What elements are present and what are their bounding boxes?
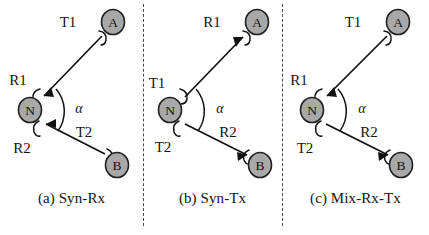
angle-label-alpha: α — [75, 101, 83, 116]
panel-syn-tx-graphic: A N B R1 T1 R2 T2 α — [143, 0, 282, 186]
node-a-label: A — [108, 15, 118, 30]
label-r2: R2 — [13, 140, 31, 156]
antenna-hook-n-bottom — [174, 121, 180, 136]
angle-arc — [196, 89, 204, 131]
label-r1: R1 — [203, 14, 221, 30]
angle-arc — [338, 89, 346, 131]
link-n-to-b — [185, 124, 247, 155]
panel-divider-2 — [282, 4, 283, 226]
angle-label-alpha: α — [358, 101, 366, 116]
node-n: N — [19, 98, 42, 123]
label-t2: T2 — [155, 139, 172, 155]
node-n: N — [301, 98, 324, 123]
panel-syn-tx: A N B R1 T1 R2 T2 α (b) Syn-Tx — [143, 0, 282, 235]
link-n-to-a — [185, 37, 243, 97]
node-n-label: N — [25, 103, 35, 118]
caption-panel-c: (c) Mix-Rx-Tx — [282, 190, 429, 207]
figure-three-panel-antenna-diagram: A N B T1 R1 T2 R2 α (a) Syn-Rx — [0, 0, 429, 235]
caption-panel-a: (a) Syn-Rx — [0, 190, 143, 207]
link-n-to-b — [326, 124, 388, 155]
angle-arc — [56, 89, 64, 131]
node-a: A — [246, 10, 269, 35]
node-n-label: N — [165, 103, 175, 118]
label-t2: T2 — [76, 124, 93, 140]
label-r2: R2 — [219, 124, 237, 140]
label-t1: T1 — [149, 75, 166, 91]
node-b: B — [249, 153, 272, 178]
panel-mix-rx-tx: A N B T1 R1 R2 T2 α (c) Mix-Rx-Tx — [282, 0, 429, 235]
node-b: B — [390, 153, 413, 178]
node-a-label: A — [393, 15, 403, 30]
label-r1: R1 — [9, 72, 27, 88]
panel-syn-rx: A N B T1 R1 T2 R2 α (a) Syn-Rx — [0, 0, 143, 235]
node-b-label: B — [396, 158, 405, 173]
link-a-to-n — [327, 36, 387, 96]
arrowhead-into-n-top — [44, 87, 54, 97]
node-a-label: A — [252, 15, 262, 30]
node-b-label: B — [255, 158, 264, 173]
node-n-label: N — [307, 103, 317, 118]
antenna-hook-n-bottom — [34, 121, 40, 136]
antenna-hook-a — [243, 31, 250, 45]
node-b: B — [106, 153, 129, 178]
panel-mix-rx-tx-graphic: A N B T1 R1 R2 T2 α — [282, 0, 429, 186]
link-a-to-n — [44, 36, 102, 96]
node-a: A — [102, 10, 125, 35]
node-a: A — [387, 10, 410, 35]
label-t2: T2 — [297, 140, 314, 156]
label-t1: T1 — [60, 14, 77, 30]
caption-panel-b: (b) Syn-Tx — [143, 190, 282, 207]
label-r2: R2 — [360, 124, 378, 140]
panel-syn-rx-graphic: A N B T1 R1 T2 R2 α — [0, 0, 143, 186]
node-b-label: B — [112, 158, 121, 173]
label-t1: T1 — [345, 14, 362, 30]
node-n: N — [159, 98, 182, 123]
angle-label-alpha: α — [216, 101, 224, 116]
antenna-hook-n-bottom — [316, 121, 322, 136]
panel-divider-1 — [143, 4, 144, 226]
label-r1: R1 — [290, 72, 308, 88]
